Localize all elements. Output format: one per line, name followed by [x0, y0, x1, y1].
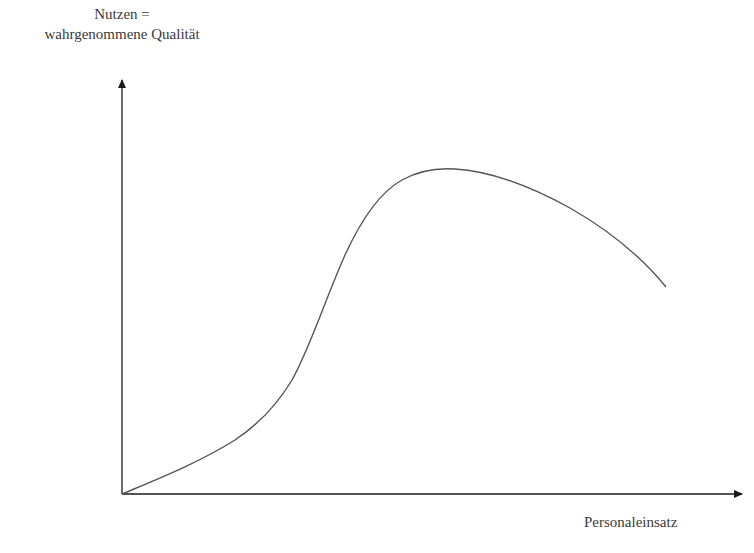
diagram-canvas — [0, 0, 754, 553]
utility-curve — [122, 169, 666, 494]
y-axis-label-line1: Nutzen = — [22, 4, 222, 24]
y-axis-label-line2: wahrgenommene Qualität — [22, 24, 222, 44]
x-axis-label: Personaleinsatz — [584, 512, 677, 532]
y-axis-label: Nutzen = wahrgenommene Qualität — [22, 4, 222, 44]
